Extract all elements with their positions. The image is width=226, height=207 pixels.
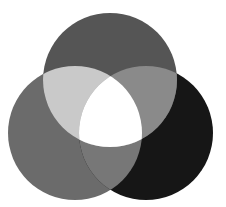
venn-diagram [0, 0, 226, 207]
